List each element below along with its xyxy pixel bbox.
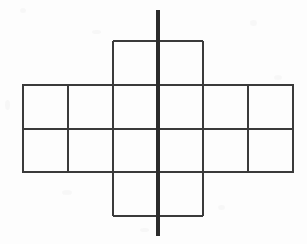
net-diagram [0,0,307,244]
figure-canvas: Line drawing of a cross-shaped polyomino… [0,0,307,244]
